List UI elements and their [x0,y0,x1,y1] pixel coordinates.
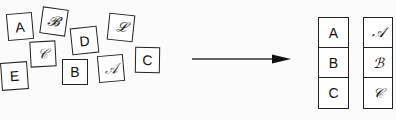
sorted-print-column: A B C [318,17,349,109]
sorted-script-column: 𝒜 ℬ 𝒞 [363,17,393,109]
cell-print-b: B [319,48,348,78]
cell-script-b: ℬ [364,48,392,78]
tile-print-e: E [0,61,29,91]
tile-script-a: 𝒜 [97,54,125,83]
cell-script-a: 𝒜 [364,18,392,48]
tile-print-a: A [6,12,34,41]
tile-print-d: D [70,26,100,56]
tile-script-l: 𝓛 [107,13,136,43]
tile-print-b: B [62,59,88,85]
tile-print-c: C [135,47,160,73]
tile-script-c: 𝒞 [29,40,56,67]
cell-print-a: A [319,18,348,48]
cell-script-c: 𝒞 [364,78,392,108]
right-arrow-icon [192,52,292,66]
cell-print-c: C [319,78,348,108]
tile-script-b: 𝓑 [39,6,69,36]
